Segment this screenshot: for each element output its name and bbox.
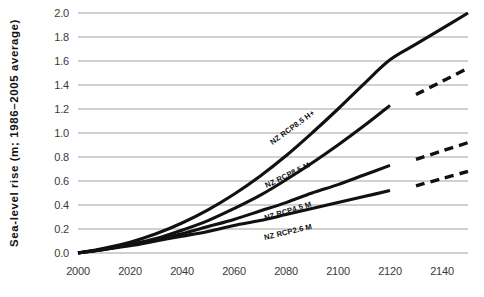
x-axis-tick-label: 2000 [66,265,90,277]
y-axis-tick-label: 0.8 [54,151,69,163]
y-axis-tick-label: 1.0 [54,127,69,139]
y-axis-tick-label: 0.2 [54,223,69,235]
sea-level-rise-chart: 0.00.20.40.60.81.01.21.41.61.82.0 200020… [0,0,484,297]
y-axis-tick-label: 0.4 [54,199,69,211]
y-axis-title: Sea-level rise (m; 1986–2005 average) [8,19,20,247]
x-axis-tick-label: 2080 [274,265,298,277]
y-axis-tick-label: 1.6 [54,55,69,67]
y-axis-tick-label: 1.4 [54,79,69,91]
y-axis-tick-label: 0.0 [54,247,69,259]
y-axis-tick-label: 1.8 [54,31,69,43]
x-axis-tick-label: 2020 [118,265,142,277]
chart-background [0,0,484,297]
x-axis-tick-label: 2100 [326,265,350,277]
chart-canvas: 0.00.20.40.60.81.01.21.41.61.82.0 200020… [0,0,484,297]
x-axis-tick-label: 2060 [222,265,246,277]
y-axis-tick-label: 0.6 [54,175,69,187]
x-axis-tick-label: 2140 [430,265,454,277]
y-axis-tick-label: 2.0 [54,7,69,19]
x-axis-tick-label: 2040 [170,265,194,277]
y-axis-tick-label: 1.2 [54,103,69,115]
x-axis-tick-label: 2120 [378,265,402,277]
